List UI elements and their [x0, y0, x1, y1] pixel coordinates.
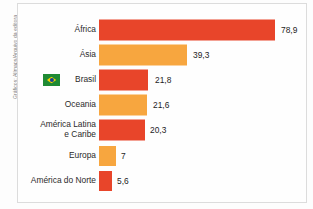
- bar-category-label: Brasil: [4, 75, 96, 85]
- bar-value-label: 7: [121, 151, 126, 161]
- bar-value-label: 21,6: [153, 100, 169, 110]
- bar-value-label: 20,3: [150, 125, 166, 135]
- bar-row: Oceania 21,6: [0, 93, 313, 117]
- bar-value-label: 39,3: [193, 50, 209, 60]
- bar-row: América do Norte 5,6: [0, 169, 313, 193]
- bar-category-label: Oceania: [4, 100, 96, 110]
- bar-row: Brasil 21,8: [0, 68, 313, 92]
- bar-row: América Latina e Caribe 20,3: [0, 118, 313, 142]
- bar-america-do-norte: [99, 171, 112, 191]
- bar-category-label: América Latina e Caribe: [4, 120, 96, 139]
- bar-america-latina-caribe: [99, 120, 145, 141]
- bar-row: África 78,9: [0, 18, 313, 42]
- bar-oceania: [99, 95, 147, 116]
- bar-brasil: [99, 70, 148, 91]
- bar-category-label: América do Norte: [4, 176, 96, 186]
- bar-category-label: África: [4, 25, 96, 35]
- bar-africa: [99, 20, 275, 41]
- bar-value-label: 78,9: [281, 25, 297, 35]
- bar-category-label: Europa: [4, 151, 96, 161]
- bar-europa: [99, 146, 116, 166]
- chart-plot-area: África 78,9 Ásia 39,3 Brasil 21,8 Oceani…: [0, 0, 313, 209]
- bar-row: Europa 7: [0, 144, 313, 168]
- bar-asia: [99, 45, 187, 66]
- chart-screenshot: Gráficos: Allmaps/Arquivo da editora Áfr…: [0, 0, 313, 209]
- bar-value-label: 21,8: [155, 75, 171, 85]
- bar-category-label: Ásia: [4, 50, 96, 60]
- bar-value-label: 5,6: [117, 176, 129, 186]
- bar-row: Ásia 39,3: [0, 43, 313, 67]
